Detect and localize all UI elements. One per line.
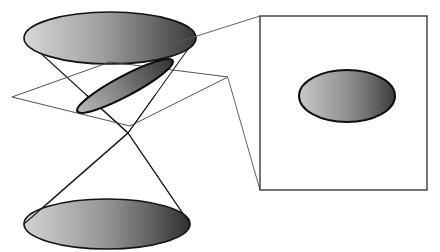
- lower-cone-base-ellipse: [24, 199, 190, 249]
- upper-cone-base-ellipse: [24, 12, 196, 64]
- conic-section-figure: Conic section: plane intersecting a doub…: [0, 0, 440, 252]
- figure-canvas: Conic section: plane intersecting a doub…: [0, 0, 440, 252]
- inset-ellipse: [299, 70, 395, 122]
